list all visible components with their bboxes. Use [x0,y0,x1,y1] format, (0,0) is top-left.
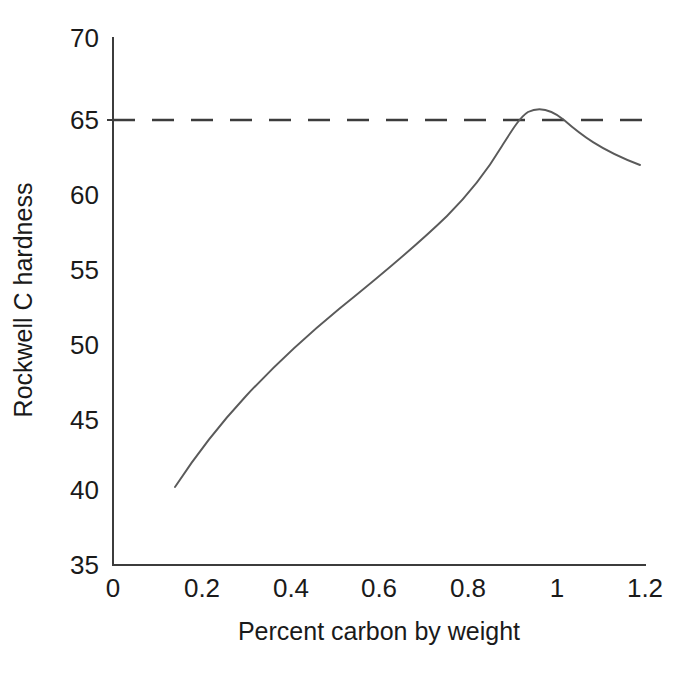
y-tick-label-45: 45 [70,405,99,435]
chart-page: 70 65 60 55 50 45 40 35 0 0.2 0.4 0.6 0.… [0,0,686,674]
x-tick-label-0-4: 0.4 [273,573,309,603]
y-tick-label-35: 35 [70,550,99,580]
x-tick-label-0-6: 0.6 [361,573,397,603]
x-tick-label-0-2: 0.2 [184,573,220,603]
y-tick-label-50: 50 [70,330,99,360]
y-tick-label-70: 70 [70,23,99,53]
chart-canvas: 70 65 60 55 50 45 40 35 0 0.2 0.4 0.6 0.… [0,0,686,674]
x-axis-title: Percent carbon by weight [238,617,520,645]
y-tick-label-40: 40 [70,475,99,505]
x-tick-label-1: 1 [550,573,564,603]
x-tick-label-0-8: 0.8 [450,573,486,603]
x-tick-label-0: 0 [106,573,120,603]
y-tick-label-65: 65 [70,105,99,135]
y-tick-label-55: 55 [70,255,99,285]
y-tick-label-60: 60 [70,180,99,210]
y-axis-title: Rockwell C hardness [9,183,37,418]
x-tick-label-1-2: 1.2 [627,573,663,603]
hardness-curve [175,109,640,487]
